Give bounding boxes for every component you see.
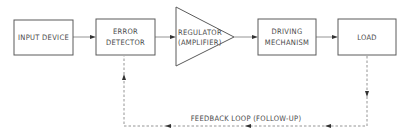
block-regulator-amplifier: REGULATOR (AMPLIFIER) xyxy=(176,7,234,66)
arrow-left-icon xyxy=(325,124,331,128)
arrow-head-icon xyxy=(252,35,258,39)
control-system-diagram: INPUT DEVICE ERROR DETECTOR REGULATOR (A… xyxy=(0,0,412,140)
feedback-loop-label: FEEDBACK LOOP (FOLLOW-UP) xyxy=(191,114,302,123)
arrow-down-icon xyxy=(365,91,369,97)
block-label: ERROR xyxy=(113,27,138,36)
block-input-device: INPUT DEVICE xyxy=(14,20,73,55)
block-label: (AMPLIFIER) xyxy=(178,38,222,47)
feedback-loop: FEEDBACK LOOP (FOLLOW-UP) xyxy=(122,56,369,128)
arrow-left-icon xyxy=(165,124,171,128)
arrow-left-icon xyxy=(245,124,251,128)
block-driving-mechanism: DRIVING MECHANISM xyxy=(258,19,316,55)
block-load: LOAD xyxy=(338,19,396,55)
block-label: DRIVING xyxy=(272,27,303,36)
arrow-head-icon xyxy=(332,35,338,39)
block-error-detector: ERROR DETECTOR xyxy=(96,19,155,55)
arrow-head-icon xyxy=(90,35,96,39)
block-label: LOAD xyxy=(357,33,377,42)
block-label: DETECTOR xyxy=(106,38,145,47)
block-label: INPUT DEVICE xyxy=(18,33,69,42)
block-label: MECHANISM xyxy=(265,38,309,47)
arrow-up-icon xyxy=(122,74,126,80)
block-label: REGULATOR xyxy=(178,28,222,37)
arrow-head-icon xyxy=(170,35,176,39)
